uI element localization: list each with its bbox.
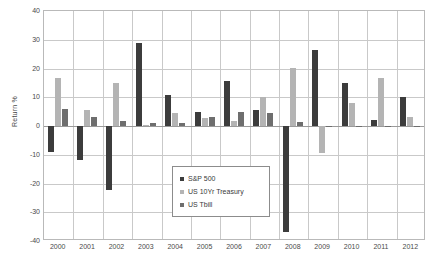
bar-group [342,11,362,239]
bar [238,112,244,126]
bar [378,78,384,126]
bar [150,123,156,126]
bar [407,117,413,126]
y-tick-label: 30 [6,35,40,42]
bar-group [400,11,420,239]
bar [165,95,171,126]
bar-group [77,11,97,239]
bar-group [283,11,303,239]
x-tick-label: 2008 [285,243,301,250]
bar-group [371,11,391,239]
legend-label: S&P 500 [188,175,216,182]
y-tick-label: 10 [6,93,40,100]
legend-item: US 10Yr Treasury [180,185,263,198]
bar [349,103,355,126]
bar [414,126,420,127]
y-tick-label: -40 [6,237,40,244]
bar [260,97,266,126]
bar [253,110,259,126]
bar [91,117,97,126]
x-tick-label: 2010 [344,243,360,250]
bar [231,121,237,126]
bar-chart: Return % 403020100-10-20-30-40 200020012… [0,0,434,262]
legend-label: US 10Yr Treasury [188,188,244,195]
legend-swatch-icon [180,203,184,207]
bar [290,68,296,126]
bar [106,126,112,190]
bar [267,113,273,126]
y-tick-label: -20 [6,179,40,186]
bar [143,125,149,126]
bar [342,83,348,126]
x-tick-label: 2011 [373,243,388,250]
bar [202,118,208,126]
x-tick-label: 2009 [314,243,330,250]
x-tick-label: 2004 [167,243,183,250]
legend-item: US Tbill [180,198,263,211]
bar [120,121,126,126]
bar [62,109,68,126]
bar [326,126,332,127]
bar-group [48,11,68,239]
bar [356,126,362,127]
x-tick-label: 2006 [226,243,242,250]
x-tick-label: 2005 [197,243,213,250]
bar [195,112,201,126]
bar [172,113,178,126]
bar [77,126,83,160]
y-tick-label: -10 [6,150,40,157]
legend-item: S&P 500 [180,172,263,185]
bar-group [136,11,156,239]
bar [48,126,54,152]
bar [209,117,215,126]
bar [400,97,406,126]
bar [297,122,303,126]
bar [283,126,289,232]
bar [55,78,61,126]
bar [84,110,90,126]
bar [224,81,230,126]
bar [385,126,391,127]
x-tick-label: 2001 [79,243,95,250]
legend-swatch-icon [180,190,184,194]
x-tick-label: 2007 [256,243,272,250]
bar [312,50,318,126]
y-tick-label: -30 [6,208,40,215]
bar [136,43,142,126]
chart-legend: S&P 500US 10Yr TreasuryUS Tbill [172,166,270,217]
legend-label: US Tbill [188,201,212,208]
bar [179,123,185,126]
legend-swatch-icon [180,177,184,181]
x-tick-label: 2000 [50,243,66,250]
x-tick-label: 2002 [109,243,125,250]
bar [371,120,377,126]
bar [319,126,325,153]
y-tick-label: 0 [6,122,40,129]
bar [113,83,119,126]
y-tick-label: 20 [6,64,40,71]
bar-group [106,11,126,239]
x-axis-tick-labels: 2000200120022003200420052006200720082009… [43,243,425,257]
y-tick-label: 40 [6,7,40,14]
x-tick-label: 2012 [403,243,419,250]
x-tick-label: 2003 [138,243,154,250]
bar-group [312,11,332,239]
